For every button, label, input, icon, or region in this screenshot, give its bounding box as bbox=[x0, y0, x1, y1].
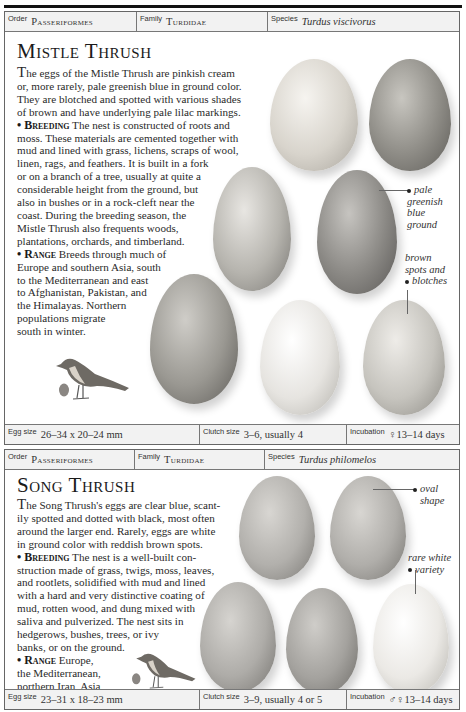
annotation-brown-spots: brown spots and blotches bbox=[405, 252, 447, 287]
annotation-text: blotches bbox=[412, 275, 447, 286]
drop-cap: T bbox=[17, 496, 26, 512]
taxonomy-header: Order Passeriformes Family Turdidae Spec… bbox=[5, 12, 459, 32]
egg-image bbox=[373, 584, 449, 694]
mistle-thrush-bird-illustration bbox=[53, 352, 133, 404]
family-value: Turdidae bbox=[166, 16, 206, 27]
taxonomy-header: Order Passeriformes Family Turdidae Spec… bbox=[5, 450, 459, 470]
species-value: Turdus viscivorus bbox=[302, 16, 376, 27]
egg-size-value: 26–34 x 20–24 mm bbox=[41, 429, 123, 440]
incubation-cell: Incubation ♂♀13–14 days bbox=[347, 690, 459, 709]
breeding-heading: • Breeding bbox=[17, 550, 70, 564]
egg-image bbox=[239, 476, 315, 580]
drop-cap: T bbox=[17, 64, 26, 80]
text-line: Breeds through much of bbox=[56, 248, 166, 260]
egg-size-label: Egg size bbox=[8, 427, 37, 436]
range-heading: • Range bbox=[17, 247, 56, 261]
entry-song-thrush: Order Passeriformes Family Turdidae Spec… bbox=[4, 449, 460, 710]
species-label: Species bbox=[268, 452, 295, 461]
order-cell: Order Passeriformes bbox=[5, 450, 135, 469]
text-line: struction made of grass, twigs, moss, le… bbox=[17, 564, 220, 577]
egg-facts-footer: Egg size 26–34 x 20–24 mm Clutch size 3–… bbox=[5, 424, 459, 444]
incubation-label: Incubation bbox=[350, 427, 385, 436]
bullet-dot-icon bbox=[407, 189, 411, 193]
range-heading: • Range bbox=[17, 653, 56, 667]
species-title: Mistle Thrush bbox=[17, 39, 152, 64]
annotation-text: shape bbox=[413, 495, 445, 507]
text-line: hedgerows, bushes, trees, or ivy bbox=[17, 628, 220, 641]
clutch-size-cell: Clutch size 3–6, usually 4 bbox=[200, 425, 347, 444]
annotation-text: variety bbox=[415, 564, 444, 575]
annotation-text: greenish bbox=[407, 196, 443, 208]
text-line: he Song Thrush's eggs are clear blue, sc… bbox=[26, 499, 220, 511]
text-line: The nest is constructed of roots and bbox=[70, 119, 230, 131]
incubation-label: Incubation bbox=[350, 692, 385, 701]
family-cell: Family Turdidae bbox=[137, 12, 268, 31]
text-line: ily spotted and dotted with black, most … bbox=[17, 512, 220, 525]
text-line: considerable height from the ground, but bbox=[17, 183, 242, 196]
egg-image bbox=[200, 582, 276, 692]
order-value: Passeriformes bbox=[31, 454, 93, 465]
text-line: coast. During the breeding season, the bbox=[17, 209, 242, 222]
clutch-size-label: Clutch size bbox=[203, 427, 240, 436]
text-line: or on a branch of a tree, usually at qui… bbox=[17, 170, 242, 183]
text-line: mud and lined with grass, lichens, scrap… bbox=[17, 144, 242, 157]
incubation-cell: Incubation ♀13–14 days bbox=[347, 425, 459, 444]
egg-size-cell: Egg size 26–34 x 20–24 mm bbox=[5, 425, 200, 444]
family-value: Turdidae bbox=[164, 454, 204, 465]
text-line: moss. These materials are cemented toget… bbox=[17, 132, 242, 145]
text-line: also in bushes or in a rock-cleft near t… bbox=[17, 196, 242, 209]
egg-image bbox=[330, 476, 406, 580]
egg-size-value: 23–31 x 18–23 mm bbox=[41, 694, 123, 705]
egg-size-label: Egg size bbox=[8, 692, 37, 701]
top-rule bbox=[4, 5, 462, 8]
species-cell: Species Turdus philomelos bbox=[265, 450, 459, 469]
clutch-size-cell: Clutch size 3–9, usually 4 or 5 bbox=[200, 690, 347, 709]
text-line: with a hard and very distinctive coating… bbox=[17, 589, 220, 602]
text-line: linen, rags, and feathers. It is built i… bbox=[17, 157, 242, 170]
egg-image bbox=[363, 300, 445, 415]
annotation-oval-shape: oval shape bbox=[413, 483, 445, 506]
order-value: Passeriformes bbox=[31, 16, 93, 27]
order-cell: Order Passeriformes bbox=[5, 12, 137, 31]
song-thrush-bird-illustration bbox=[131, 650, 199, 694]
clutch-size-value: 3–6, usually 4 bbox=[244, 429, 303, 440]
clutch-size-label: Clutch size bbox=[203, 692, 240, 701]
text-line: mud, rotten wood, and dung mixed with bbox=[17, 602, 220, 615]
annotation-text: oval bbox=[420, 483, 438, 494]
annotation-pale-greenish-blue: pale greenish blue ground bbox=[407, 184, 443, 230]
egg-image bbox=[286, 588, 358, 694]
entry-mistle-thrush: Order Passeriformes Family Turdidae Spec… bbox=[4, 11, 460, 445]
species-cell: Species Turdus viscivorus bbox=[268, 12, 459, 31]
breeding-heading: • Breeding bbox=[17, 118, 70, 132]
species-value: Turdus philomelos bbox=[299, 454, 377, 465]
annotation-text: brown bbox=[405, 252, 447, 264]
text-line: he eggs of the Mistle Thrush are pinkish… bbox=[26, 67, 235, 79]
family-cell: Family Turdidae bbox=[135, 450, 265, 469]
incubation-value: ♀13–14 days bbox=[389, 429, 445, 440]
family-label: Family bbox=[140, 14, 162, 23]
bullet-dot-icon bbox=[405, 280, 409, 284]
annotation-leader bbox=[379, 190, 409, 191]
annotation-text: blue bbox=[407, 207, 443, 219]
annotation-leader bbox=[373, 489, 415, 490]
family-label: Family bbox=[138, 452, 160, 461]
annotation-text: ground bbox=[407, 219, 443, 231]
egg-image bbox=[317, 170, 397, 294]
species-label: Species bbox=[271, 14, 298, 23]
egg-image bbox=[270, 59, 358, 171]
egg-image bbox=[369, 59, 451, 171]
incubation-value: ♂♀13–14 days bbox=[389, 694, 453, 705]
egg-size-cell: Egg size 23–31 x 18–23 mm bbox=[5, 690, 200, 709]
text-line: The nest is a well-built con- bbox=[70, 551, 197, 563]
text-line: Europe and southern Asia, south bbox=[17, 261, 242, 274]
text-line: They are blotched and spotted with vario… bbox=[17, 93, 242, 106]
clutch-size-value: 3–9, usually 4 or 5 bbox=[244, 694, 322, 705]
text-line: or, more rarely, pale greenish blue in g… bbox=[17, 80, 242, 93]
text-line: and rootlets, solidified with mud and li… bbox=[17, 576, 220, 589]
bullet-dot-icon bbox=[413, 488, 417, 492]
text-line: around the larger end. Rarely, eggs are … bbox=[17, 525, 220, 538]
annotation-leader bbox=[415, 570, 416, 594]
text-line: Europe, bbox=[56, 654, 94, 666]
bullet-dot-icon bbox=[408, 568, 412, 572]
annotation-text: spots and bbox=[405, 264, 447, 276]
